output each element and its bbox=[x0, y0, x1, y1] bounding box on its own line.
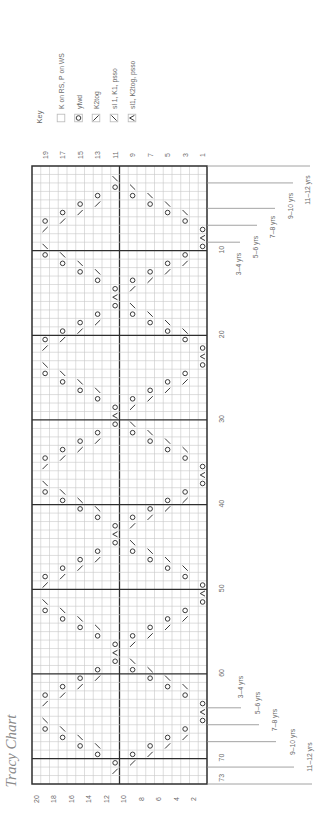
row-label-top: 11 bbox=[112, 151, 119, 158]
chart-title: Tracy Chart bbox=[3, 714, 19, 788]
stitch-number-label: 60 bbox=[218, 669, 225, 677]
row-label-bottom: 2 bbox=[190, 797, 197, 801]
row-label-bottom: 20 bbox=[33, 795, 40, 803]
size-label-bottom: 9–10 yrs bbox=[289, 728, 297, 755]
size-label-bottom: 11–12 yrs bbox=[306, 742, 314, 772]
key-item-label: K on RS, P on WS bbox=[58, 53, 65, 109]
row-label-bottom: 6 bbox=[155, 797, 162, 801]
caret-up-icon bbox=[128, 114, 136, 122]
row-label-top: 5 bbox=[164, 153, 171, 157]
stitch-number-label: 40 bbox=[218, 500, 225, 508]
key-heading: Key bbox=[35, 110, 44, 123]
size-label-bottom: 5–6 yrs bbox=[254, 691, 262, 714]
row-label-top: 17 bbox=[59, 151, 66, 159]
row-label-bottom: 14 bbox=[85, 795, 92, 803]
key-item-label: yfwd bbox=[76, 95, 84, 109]
row-label-bottom: 16 bbox=[68, 795, 75, 803]
row-label-bottom: 18 bbox=[50, 795, 57, 803]
key-legend: K on RS, P on WSyfwdK2togsl 1, K1, pssos… bbox=[57, 53, 137, 122]
row-label-top: 19 bbox=[42, 151, 49, 159]
row-label-bottom: 8 bbox=[138, 797, 145, 801]
row-label-bottom: 4 bbox=[173, 797, 180, 801]
empty-square-icon bbox=[57, 114, 65, 122]
stitch-number-label: 30 bbox=[218, 415, 225, 423]
key-item-label: sl1, K2tog, psso bbox=[129, 60, 137, 109]
stitch-number-label: 70 bbox=[218, 754, 225, 762]
row-label-top: 15 bbox=[77, 151, 84, 159]
size-markers: 11–12 yrs9–10 yrs7–8 yrs5–6 yrs3–4 yrs3–… bbox=[207, 166, 314, 784]
stitch-number-label: 50 bbox=[218, 584, 225, 592]
left-slant-icon bbox=[110, 114, 118, 122]
row-label-top: 1 bbox=[199, 153, 206, 157]
size-label-bottom: 7–8 yrs bbox=[271, 708, 279, 731]
size-label-top: 11–12 yrs bbox=[304, 175, 312, 205]
row-label-top: 13 bbox=[94, 151, 101, 159]
row-label-bottom: 12 bbox=[103, 795, 110, 803]
stitch-number-label: 73 bbox=[218, 774, 225, 782]
size-label-top: 7–8 yrs bbox=[269, 215, 277, 238]
right-slant-icon bbox=[92, 114, 100, 122]
size-label-bottom: 3–4 yrs bbox=[237, 675, 245, 698]
stitch-grid bbox=[32, 166, 207, 784]
stitch-number-label: 10 bbox=[218, 246, 225, 254]
size-label-top: 3–4 yrs bbox=[235, 252, 243, 275]
chart-canvas: Tracy ChartK on RS, P on WSyfwdK2togsl 1… bbox=[0, 0, 336, 838]
stitch-number-label: 20 bbox=[218, 330, 225, 338]
size-label-top: 9–10 yrs bbox=[287, 192, 295, 219]
size-label-top: 5–6 yrs bbox=[252, 235, 260, 258]
key-item-label: sl 1, K1, psso bbox=[111, 68, 119, 109]
row-label-bottom: 10 bbox=[120, 795, 127, 803]
yarn-over-circle-icon bbox=[75, 114, 83, 122]
row-label-top: 3 bbox=[182, 153, 189, 157]
key-item-label: K2tog bbox=[93, 91, 101, 109]
row-label-top: 7 bbox=[147, 153, 154, 157]
row-label-top: 9 bbox=[129, 153, 136, 157]
